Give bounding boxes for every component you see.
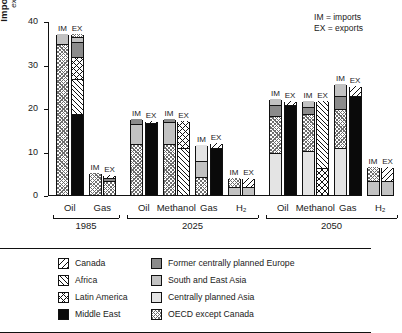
bar-im: [302, 102, 315, 196]
bar-segment: [350, 97, 361, 195]
y-tick-label: 40: [12, 17, 38, 26]
bar-segment: [211, 149, 222, 195]
bar-segment: [270, 106, 281, 117]
y-tick-mark: [44, 196, 48, 197]
bar-im: [163, 120, 176, 196]
legend-label: South and East Asia: [168, 275, 246, 285]
bar-ex: [349, 87, 362, 196]
legend-label: Centrally planned Asia: [168, 292, 254, 302]
bar-segment: [211, 143, 222, 150]
bar-segment: [131, 145, 142, 195]
legend-swatch: [58, 275, 69, 286]
y-tick-label: 30: [12, 61, 38, 70]
bar-segment: [368, 182, 379, 195]
bar-ex: [145, 122, 158, 196]
group-rule-tick: [53, 215, 54, 218]
x-axis-year-label: 1985: [53, 221, 119, 231]
group-rule-tick: [127, 215, 128, 218]
legend-label: Canada: [75, 258, 105, 268]
legend-label: OECD except Canada: [168, 309, 254, 319]
legend-item: Canada: [58, 255, 128, 271]
bar-segment: [243, 178, 254, 189]
legend-swatch: [151, 258, 162, 269]
y-axis-line: [48, 22, 49, 196]
bar-label-ex: EX: [102, 165, 118, 174]
bar-segment: [164, 119, 175, 123]
legend-item: Latin America: [58, 289, 128, 305]
bar-segment: [104, 179, 115, 182]
bar-im: [334, 85, 347, 196]
legend-swatch: [58, 292, 69, 303]
legend-swatch: [58, 309, 69, 320]
bar-label-ex: EX: [69, 24, 85, 33]
bar-segment: [368, 167, 379, 182]
bar-ex: [284, 102, 297, 196]
bar-segment: [146, 121, 157, 124]
legend-label: Africa: [75, 275, 97, 285]
group-rule-tick: [258, 215, 259, 218]
bar-im: [89, 174, 102, 196]
bar-segment: [285, 101, 296, 105]
bar-ex: [242, 179, 255, 196]
bar-label-ex: EX: [208, 133, 224, 142]
bar-im: [269, 100, 282, 196]
group-rule-tick: [266, 215, 267, 218]
bar-segment: [146, 124, 157, 195]
bar-ex: [103, 176, 116, 196]
bar-im: [130, 120, 143, 196]
bar-label-ex: EX: [347, 76, 363, 85]
bar-segment: [104, 175, 115, 179]
bar-im: [56, 35, 69, 196]
bar-segment: [90, 173, 101, 195]
bar-segment: [72, 80, 83, 115]
bar-label-ex: EX: [380, 157, 396, 166]
bar-segment: [72, 115, 83, 195]
y-tick-label: 0: [12, 191, 38, 200]
bar-segment: [382, 182, 393, 195]
bar-segment: [57, 45, 68, 195]
bar-ex: [210, 144, 223, 196]
bar-ex: [316, 102, 329, 196]
bar-label-ex: EX: [241, 168, 257, 177]
bar-im: [195, 146, 208, 196]
bar-segment: [164, 145, 175, 195]
legend-item: South and East Asia: [151, 272, 295, 288]
bar-segment: [243, 188, 254, 195]
y-axis-ticks: 010203040: [0, 0, 48, 174]
bar-segment: [382, 167, 393, 182]
bar-label-ex: EX: [282, 91, 298, 100]
bar-segment: [72, 43, 83, 58]
bar-segment: [196, 162, 207, 177]
legend-item: Former centrally planned Europe: [151, 255, 295, 271]
bar-segment: [196, 145, 207, 162]
legend-column-1: CanadaAfricaLatin AmericaMiddle East: [58, 255, 128, 323]
group-rule-tick: [119, 215, 120, 218]
bar-segment: [270, 154, 281, 195]
bar-segment: [350, 86, 361, 97]
group-rule-tick: [397, 215, 398, 218]
bar-segment: [72, 38, 83, 42]
bar-segment: [303, 152, 314, 196]
legend-label: Middle East: [75, 309, 120, 319]
legend: CanadaAfricaLatin AmericaMiddle East For…: [0, 248, 371, 333]
bar-segment: [270, 99, 281, 106]
group-rule: [53, 218, 119, 219]
bar-label-ex: EX: [143, 111, 159, 120]
bar-segment: [164, 123, 175, 145]
bar-im: [367, 168, 380, 196]
legend-swatch: [58, 258, 69, 269]
y-tick-label: 20: [12, 104, 38, 113]
bar-segment: [131, 119, 142, 126]
bar-ex: [381, 168, 394, 196]
bar-segment: [303, 108, 314, 115]
bar-segment: [335, 110, 346, 149]
x-axis-year-label: 2050: [266, 221, 397, 231]
bar-ex: [177, 122, 190, 196]
bar-segment: [270, 117, 281, 154]
legend-item: Centrally planned Asia: [151, 289, 295, 305]
bar-segment: [178, 121, 189, 149]
bar-segment: [57, 34, 68, 45]
legend-swatch: [151, 309, 162, 320]
bar-segment: [229, 178, 240, 189]
